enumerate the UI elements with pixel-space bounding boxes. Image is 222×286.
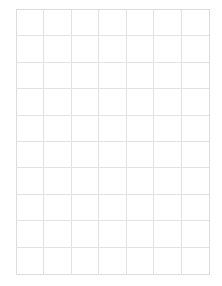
grid-cell xyxy=(44,63,71,89)
grid-cell xyxy=(17,221,44,247)
grid-cell xyxy=(44,168,71,194)
grid-cell xyxy=(72,36,99,62)
grid-cell xyxy=(99,142,126,168)
grid-cell xyxy=(99,195,126,221)
grid-cell xyxy=(72,116,99,142)
grid-cell xyxy=(17,36,44,62)
grid-cell xyxy=(72,168,99,194)
grid-cell xyxy=(182,248,209,274)
grid-cell xyxy=(127,63,154,89)
grid-cell xyxy=(44,10,71,36)
grid-cell xyxy=(17,10,44,36)
grid-cell xyxy=(127,168,154,194)
grid-cell xyxy=(154,142,181,168)
grid-cell xyxy=(154,10,181,36)
grid-cell xyxy=(154,248,181,274)
grid-cell xyxy=(182,221,209,247)
grid-cell xyxy=(182,89,209,115)
grid-cell xyxy=(17,195,44,221)
grid-cell xyxy=(182,168,209,194)
grid-cell xyxy=(99,248,126,274)
grid-cell xyxy=(72,63,99,89)
grid-cell xyxy=(127,248,154,274)
grid-cell xyxy=(99,10,126,36)
grid-cell xyxy=(44,36,71,62)
grid-cell xyxy=(127,116,154,142)
grid-cell xyxy=(17,116,44,142)
grid-cell xyxy=(127,10,154,36)
grid-cell xyxy=(127,142,154,168)
grid-cell xyxy=(154,221,181,247)
grid-cell xyxy=(44,142,71,168)
grid-cell xyxy=(154,63,181,89)
grid-cell xyxy=(127,221,154,247)
grid-cell xyxy=(182,195,209,221)
grid-cell xyxy=(44,248,71,274)
grid-cell xyxy=(154,116,181,142)
grid-cell xyxy=(154,36,181,62)
grid-cell xyxy=(182,10,209,36)
grid-cell xyxy=(182,63,209,89)
grid-cell xyxy=(44,195,71,221)
grid-cell xyxy=(182,142,209,168)
grid-cell xyxy=(72,248,99,274)
grid-cell xyxy=(72,195,99,221)
grid-cell xyxy=(127,89,154,115)
grid-cell xyxy=(99,116,126,142)
grid-cell xyxy=(17,63,44,89)
grid-cell xyxy=(72,10,99,36)
grid-cell xyxy=(154,195,181,221)
grid-cell xyxy=(17,248,44,274)
blank-grid xyxy=(16,9,210,275)
grid-cell xyxy=(99,63,126,89)
grid-cell xyxy=(154,89,181,115)
grid-cell xyxy=(44,116,71,142)
grid-cell xyxy=(99,36,126,62)
grid-cell xyxy=(127,195,154,221)
grid-cell xyxy=(127,36,154,62)
grid-cell xyxy=(17,168,44,194)
grid-cell xyxy=(72,89,99,115)
grid-cell xyxy=(72,221,99,247)
grid-cell xyxy=(72,142,99,168)
grid-cell xyxy=(182,36,209,62)
grid-cell xyxy=(17,142,44,168)
grid-cell xyxy=(44,89,71,115)
grid-cell xyxy=(99,168,126,194)
grid-cell xyxy=(17,89,44,115)
grid-cell xyxy=(154,168,181,194)
grid-cell xyxy=(99,221,126,247)
grid-cell xyxy=(44,221,71,247)
grid-cell xyxy=(99,89,126,115)
grid-cell xyxy=(182,116,209,142)
